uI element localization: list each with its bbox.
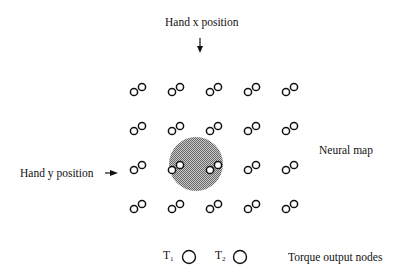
map-node bbox=[290, 122, 297, 129]
map-node bbox=[168, 205, 175, 212]
map-node bbox=[252, 161, 259, 168]
map-node bbox=[282, 205, 289, 212]
map-node bbox=[206, 205, 213, 212]
map-node bbox=[138, 122, 145, 129]
t1-label: T1 bbox=[163, 250, 174, 263]
map-node bbox=[214, 200, 221, 207]
map-node bbox=[252, 122, 259, 129]
map-node bbox=[290, 83, 297, 90]
map-node bbox=[214, 161, 221, 168]
map-node bbox=[176, 161, 183, 168]
map-node bbox=[252, 200, 259, 207]
map-node bbox=[138, 200, 145, 207]
map-node bbox=[168, 88, 175, 95]
map-node bbox=[214, 83, 221, 90]
map-node bbox=[290, 161, 297, 168]
hand-x-arrow-icon bbox=[197, 38, 203, 53]
map-node bbox=[176, 200, 183, 207]
map-node bbox=[214, 122, 221, 129]
neural-map-diagram bbox=[0, 0, 413, 278]
map-node bbox=[206, 88, 213, 95]
map-node bbox=[168, 127, 175, 134]
map-node bbox=[176, 122, 183, 129]
map-node bbox=[244, 127, 251, 134]
map-node bbox=[282, 88, 289, 95]
map-node bbox=[168, 166, 175, 173]
map-node bbox=[244, 88, 251, 95]
map-node bbox=[206, 166, 213, 173]
map-node bbox=[130, 88, 137, 95]
map-node bbox=[130, 166, 137, 173]
map-node bbox=[206, 127, 213, 134]
map-node bbox=[290, 200, 297, 207]
t2-label: T2 bbox=[215, 250, 226, 263]
map-node bbox=[282, 166, 289, 173]
map-node bbox=[130, 127, 137, 134]
neural-map-label: Neural map bbox=[319, 145, 373, 157]
map-node bbox=[244, 205, 251, 212]
torque-output-label: Torque output nodes bbox=[288, 252, 382, 264]
map-node bbox=[138, 83, 145, 90]
map-node bbox=[252, 83, 259, 90]
torque-node-t1 bbox=[183, 251, 196, 264]
map-node bbox=[130, 205, 137, 212]
hand-x-label: Hand x position bbox=[165, 17, 238, 29]
hand-y-arrow-icon bbox=[105, 170, 118, 176]
torque-node-t2 bbox=[234, 251, 247, 264]
map-node bbox=[244, 166, 251, 173]
map-node bbox=[282, 127, 289, 134]
map-node bbox=[176, 83, 183, 90]
hand-y-label: Hand y position bbox=[20, 168, 93, 180]
map-node bbox=[138, 161, 145, 168]
